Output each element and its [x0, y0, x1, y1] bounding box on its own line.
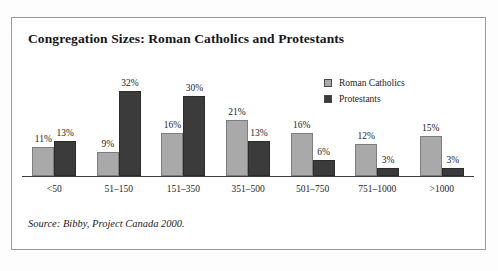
bar-wrap-roman-catholics-5: 12% [355, 62, 377, 176]
bar-wrap-roman-catholics-6: 15% [420, 62, 442, 176]
bar-protestants-2 [183, 96, 205, 176]
bar-value-protestants-5: 3% [382, 155, 395, 166]
bar-groups: 11% 13% 9% 32% [22, 62, 474, 176]
bar-value-protestants-6: 3% [446, 155, 459, 166]
x-axis-label-1: 51–150 [87, 184, 152, 194]
bar-value-roman-catholics-4: 16% [293, 120, 310, 131]
bar-wrap-protestants-5: 3% [377, 62, 399, 176]
x-axis-label-2: 151–350 [151, 184, 216, 194]
bar-wrap-roman-catholics-1: 9% [97, 62, 119, 176]
chart-title: Congregation Sizes: Roman Catholics and … [28, 31, 344, 47]
x-axis-label-3: 351–500 [216, 184, 281, 194]
bar-wrap-roman-catholics-0: 11% [32, 62, 54, 176]
bar-group-351-500: 21% 13% [216, 62, 281, 176]
x-axis-line [22, 176, 474, 178]
bar-roman-catholics-1 [97, 152, 119, 176]
bar-group-751-1000: 12% 3% [345, 62, 410, 176]
bar-roman-catholics-4 [291, 133, 313, 176]
bar-wrap-protestants-0: 13% [54, 62, 76, 176]
bar-value-roman-catholics-1: 9% [102, 139, 115, 150]
bar-group-51-150: 9% 32% [87, 62, 152, 176]
x-axis-label-5: 751–1000 [345, 184, 410, 194]
chart-figure: Congregation Sizes: Roman Catholics and … [0, 0, 498, 271]
chart-source-note: Source: Bibby, Project Canada 2000. [28, 218, 185, 229]
bar-value-roman-catholics-6: 15% [422, 123, 439, 134]
bar-value-roman-catholics-3: 21% [228, 107, 245, 118]
bar-roman-catholics-0 [32, 147, 54, 176]
bar-value-roman-catholics-5: 12% [357, 131, 374, 142]
bar-wrap-roman-catholics-3: 21% [226, 62, 248, 176]
bar-value-protestants-0: 13% [57, 128, 74, 139]
x-axis-label-6: >1000 [409, 184, 474, 194]
bar-roman-catholics-6 [420, 136, 442, 176]
bar-protestants-4 [313, 160, 335, 176]
bar-group-lt50: 11% 13% [22, 62, 87, 176]
bar-wrap-roman-catholics-2: 16% [161, 62, 183, 176]
bar-value-protestants-4: 6% [317, 147, 330, 158]
bar-wrap-protestants-3: 13% [248, 62, 270, 176]
bar-roman-catholics-2 [161, 133, 183, 176]
bar-roman-catholics-3 [226, 120, 248, 176]
bar-group-501-750: 16% 6% [280, 62, 345, 176]
bar-value-protestants-3: 13% [250, 128, 267, 139]
bar-value-protestants-2: 30% [186, 83, 203, 94]
bar-roman-catholics-5 [355, 144, 377, 176]
bar-group-151-350: 16% 30% [151, 62, 216, 176]
bar-wrap-roman-catholics-4: 16% [291, 62, 313, 176]
bar-protestants-1 [119, 91, 141, 176]
bar-wrap-protestants-1: 32% [119, 62, 141, 176]
x-axis-labels: <50 51–150 151–350 351–500 501–750 751–1… [22, 184, 474, 194]
bar-value-protestants-1: 32% [121, 78, 138, 89]
x-axis-label-4: 501–750 [280, 184, 345, 194]
bar-protestants-0 [54, 141, 76, 176]
plot-area: 11% 13% 9% 32% [22, 62, 474, 177]
bar-wrap-protestants-2: 30% [183, 62, 205, 176]
bar-wrap-protestants-6: 3% [442, 62, 464, 176]
x-axis-label-0: <50 [22, 184, 87, 194]
bar-value-roman-catholics-2: 16% [164, 120, 181, 131]
bar-value-roman-catholics-0: 11% [35, 134, 52, 145]
bar-group-gt1000: 15% 3% [409, 62, 474, 176]
bar-wrap-protestants-4: 6% [313, 62, 335, 176]
bar-protestants-3 [248, 141, 270, 176]
